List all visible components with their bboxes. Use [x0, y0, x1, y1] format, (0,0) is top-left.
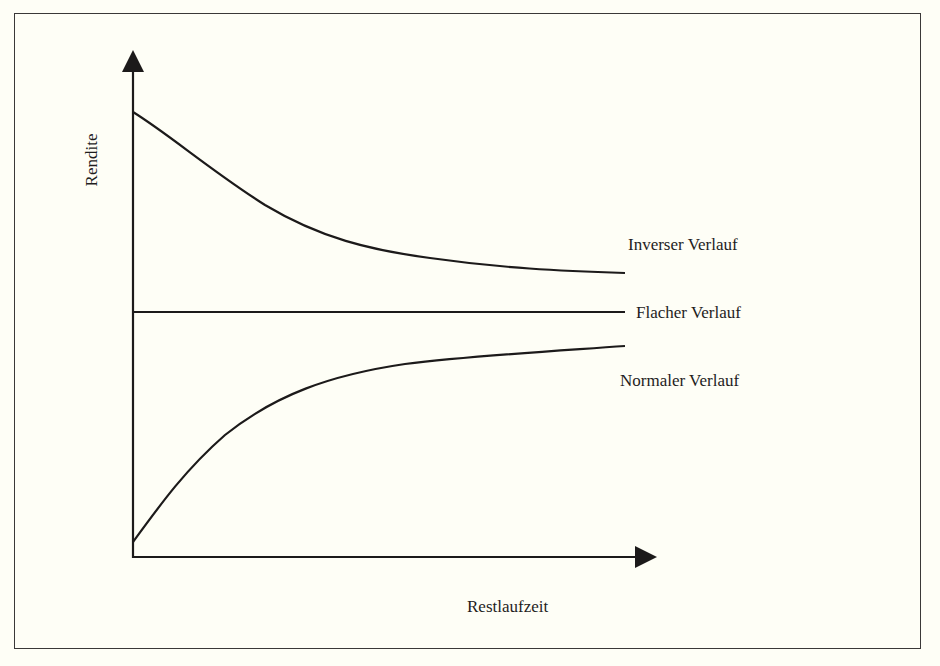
yield-curve-diagram	[0, 0, 940, 666]
y-axis-label: Rendite	[82, 134, 102, 187]
y-axis-arrow-icon	[122, 50, 144, 72]
label-normal: Normaler Verlauf	[620, 371, 739, 391]
curve-inverse	[133, 112, 625, 273]
label-flat: Flacher Verlauf	[636, 303, 741, 323]
curve-normal	[133, 346, 625, 542]
label-inverse: Inverser Verlauf	[628, 235, 738, 255]
x-axis-arrow-icon	[635, 546, 657, 568]
x-axis-label: Restlaufzeit	[467, 597, 548, 617]
